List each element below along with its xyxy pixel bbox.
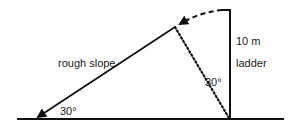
angle-bottom-label: 30° — [60, 105, 77, 117]
angle-top-label: 30° — [205, 76, 222, 88]
slope-label: rough slope — [58, 57, 116, 69]
dotted-rotated-ladder — [175, 27, 229, 118]
slope-line — [38, 27, 175, 117]
ladder-line — [222, 10, 230, 119]
ladder-length-label: 10 m — [236, 35, 260, 47]
ladder-label: ladder — [236, 57, 267, 69]
dashed-rotation-arc — [180, 10, 222, 24]
ladder-slope-diagram: rough slope 10 m ladder 30° 30° — [0, 0, 288, 131]
